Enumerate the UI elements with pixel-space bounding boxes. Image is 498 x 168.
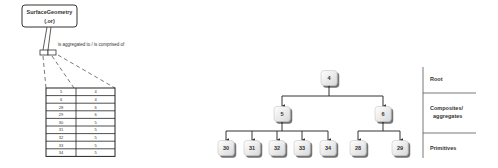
relation-label: is aggregated to / is comprised of <box>58 42 125 47</box>
level-primitives-label: Primitives <box>430 145 456 151</box>
table-cell-child: 31 <box>59 127 64 132</box>
diagram-canvas: SurfaceGeometry (.or) is aggregated to /… <box>0 0 498 168</box>
table-cell-child: 29 <box>59 112 64 117</box>
table-cell-child: 32 <box>59 135 64 140</box>
level-root-label: Root <box>430 76 443 82</box>
tree-node-label: 5 <box>280 111 283 117</box>
entity-subtitle: (.or) <box>44 18 55 24</box>
table-cell-child: 30 <box>59 120 64 125</box>
tree-node: 31 <box>244 141 260 156</box>
aggregation-table: 5464286296305315325335345 <box>46 88 115 156</box>
tree-node: 4 <box>321 71 337 86</box>
table-cell-child: 33 <box>59 143 64 148</box>
table-cell-child: 34 <box>59 150 64 155</box>
table-cell-child: 28 <box>59 105 64 110</box>
tree-node: 34 <box>320 141 336 156</box>
tree-node: 33 <box>294 141 310 156</box>
level-composites-label-1: Composites/ <box>430 105 463 111</box>
tree-node-label: 28 <box>355 145 361 151</box>
tree-node: 5 <box>274 107 290 122</box>
tree-connectors <box>226 86 400 141</box>
tree-node: 32 <box>269 141 285 156</box>
tree-node-label: 32 <box>274 145 280 151</box>
tree-node: 6 <box>375 107 391 122</box>
tree-node-label: 31 <box>249 145 255 151</box>
tree-node: 29 <box>392 141 408 156</box>
level-composites-label-2: aggregates <box>433 113 462 119</box>
expand-connectors <box>43 55 115 88</box>
entity-box: SurfaceGeometry (.or) <box>22 5 77 27</box>
self-relation <box>40 27 56 55</box>
tree-node-label: 33 <box>299 145 305 151</box>
tree-node-label: 34 <box>325 145 332 151</box>
tree-node-label: 30 <box>223 145 229 151</box>
tree-node-label: 6 <box>381 111 384 117</box>
entity-name: SurfaceGeometry <box>27 9 74 15</box>
tree-nodes: 45628293031323334 <box>218 71 408 156</box>
tree-node: 30 <box>218 141 234 156</box>
tree-node-label: 29 <box>397 145 403 151</box>
tree-node: 28 <box>350 141 366 156</box>
